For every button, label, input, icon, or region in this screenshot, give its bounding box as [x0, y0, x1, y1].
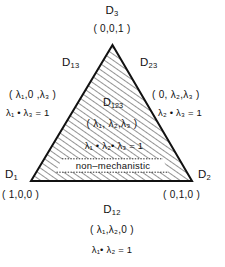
edge-label-d13: D13	[62, 56, 79, 68]
edge-equation-d12: λ₁• λ₂ = 1	[92, 245, 132, 255]
interior-equation-d123: λ₁ • λ₂• λ₃ = 1	[85, 141, 144, 151]
simplex-figure: D3 ( 0,0,1 ) D13 ( λ₁,0 ,λ₃ ) λ₁ • λ₃ = …	[0, 0, 225, 267]
vertex-coords-d1: ( 1,0,0 )	[2, 190, 39, 201]
edge-equation-d23: λ₂ • λ₃ = 1	[158, 108, 202, 118]
edge-coords-d23: ( 0, λ₂,λ₃ )	[152, 90, 200, 101]
edge-label-d12: D12	[103, 203, 120, 215]
interior-label-d123: D123	[103, 97, 123, 109]
interior-coords-d123: ( λ₁, λ₂,λ₃ )	[87, 119, 138, 130]
vertex-coords-d3: ( 0,0,1 )	[93, 24, 130, 35]
vertex-coords-d2: ( 0,1,0 )	[163, 190, 200, 201]
vertex-label-d2: D2	[198, 168, 211, 180]
edge-equation-d13: λ₁ • λ₃ = 1	[6, 108, 50, 118]
edge-coords-d13: ( λ₁,0 ,λ₃ )	[9, 90, 56, 101]
edge-coords-d12: ( λ₁,λ₂,0 )	[90, 225, 134, 236]
vertex-label-d3: D3	[106, 4, 119, 16]
vertex-label-d1: D1	[5, 168, 18, 180]
edge-label-d23: D23	[140, 56, 157, 68]
non-mechanistic-label: non–mechanistic	[76, 161, 150, 171]
